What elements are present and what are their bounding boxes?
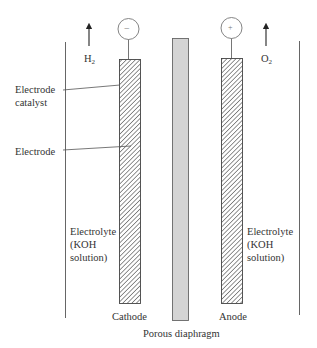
porous-diaphragm-label: Porous diaphragm: [143, 327, 220, 340]
minus-sign: −: [124, 22, 130, 35]
cathode-label: Cathode: [112, 310, 147, 323]
electrode-catalyst-label-line2: catalyst: [15, 96, 55, 109]
electrode-catalyst-label-line1: Electrode: [15, 83, 55, 96]
electrolyte-left-label: Electrolyte (KOH solution): [70, 225, 116, 264]
plus-sign: +: [228, 21, 233, 34]
electrolyte-right-line2: (KOH: [247, 238, 293, 251]
electrode-label: Electrode: [15, 145, 55, 158]
h2-gas-label: H2: [84, 52, 95, 69]
electrolyte-left-line3: solution): [70, 251, 116, 264]
electrolyte-right-line1: Electrolyte: [247, 225, 293, 238]
electrolyte-right-label: Electrolyte (KOH solution): [247, 225, 293, 264]
cathode-electrode: [120, 60, 141, 304]
electrolyte-right-line3: solution): [247, 251, 293, 264]
o2-gas-label: O2: [261, 52, 272, 69]
electrolyte-left-line2: (KOH: [70, 238, 116, 251]
electrode-catalyst-leader-line: [63, 85, 120, 90]
electrolyte-left-line1: Electrolyte: [70, 225, 116, 238]
anode-label: Anode: [219, 310, 247, 323]
anode-electrode: [222, 59, 243, 304]
electrode-catalyst-label: Electrode catalyst: [15, 83, 55, 109]
porous-diaphragm: [173, 39, 189, 321]
